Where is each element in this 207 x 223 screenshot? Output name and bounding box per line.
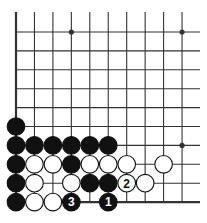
white-stone-icon xyxy=(155,156,173,174)
move-number-label: 1 xyxy=(105,195,112,209)
white-stone xyxy=(99,156,117,174)
black-stone-icon xyxy=(7,193,25,211)
black-stone xyxy=(81,174,99,192)
white-stone-icon xyxy=(63,174,81,192)
black-stone-icon xyxy=(44,137,62,155)
white-stone xyxy=(155,156,173,174)
white-stone xyxy=(118,156,136,174)
black-stone-icon xyxy=(81,174,99,192)
white-stone-icon xyxy=(136,174,154,192)
white-stone xyxy=(26,174,44,192)
black-stone-icon xyxy=(26,137,44,155)
white-stone-icon xyxy=(44,156,62,174)
move-number-label: 2 xyxy=(123,177,130,191)
black-stone-icon xyxy=(7,118,25,136)
white-stone xyxy=(81,156,99,174)
white-stone-icon xyxy=(44,193,62,211)
black-stone xyxy=(63,156,81,174)
black-stone-move-1: 1 xyxy=(99,193,117,211)
white-stone-icon xyxy=(118,156,136,174)
star-point-icon xyxy=(179,29,184,34)
black-stone xyxy=(7,174,25,192)
black-stone-icon xyxy=(99,174,117,192)
move-number-label: 3 xyxy=(68,195,75,209)
black-stone-icon xyxy=(7,174,25,192)
star-point-icon xyxy=(69,29,74,34)
go-board: 231 xyxy=(0,0,207,223)
black-stone xyxy=(7,137,25,155)
white-stone-icon xyxy=(26,193,44,211)
star-point-icon xyxy=(179,143,184,148)
black-stone-move-3: 3 xyxy=(63,193,81,211)
black-stone xyxy=(7,118,25,136)
white-stone-icon xyxy=(26,174,44,192)
black-stone-icon xyxy=(7,156,25,174)
white-stone-icon xyxy=(81,156,99,174)
black-stone-icon xyxy=(81,137,99,155)
white-stone-icon xyxy=(26,156,44,174)
white-stone xyxy=(26,156,44,174)
black-stone-icon xyxy=(63,137,81,155)
white-stone xyxy=(63,174,81,192)
black-stone xyxy=(26,137,44,155)
black-stone xyxy=(81,137,99,155)
white-stone xyxy=(26,193,44,211)
black-stone xyxy=(7,156,25,174)
white-stone xyxy=(44,193,62,211)
black-stone-icon xyxy=(63,156,81,174)
black-stone xyxy=(63,137,81,155)
white-stone xyxy=(136,174,154,192)
white-stone-icon xyxy=(99,156,117,174)
black-stone xyxy=(44,137,62,155)
black-stone xyxy=(99,174,117,192)
white-stone-move-2: 2 xyxy=(118,174,136,192)
black-stone-icon xyxy=(7,137,25,155)
black-stone-icon xyxy=(99,137,117,155)
black-stone xyxy=(7,193,25,211)
black-stone xyxy=(99,137,117,155)
white-stone xyxy=(44,156,62,174)
